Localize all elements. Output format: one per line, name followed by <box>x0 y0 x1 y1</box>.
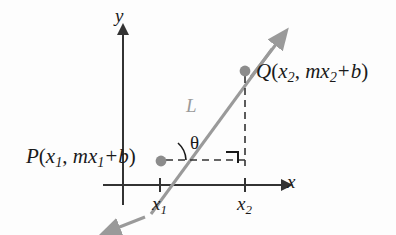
angle-arc-icon <box>178 143 186 160</box>
tick-x2-subscript: 2 <box>245 202 251 217</box>
tick-x1-subscript: 1 <box>160 202 166 217</box>
point-p-dot <box>156 156 167 167</box>
tick-label-x2: x2 <box>237 194 252 217</box>
point-p-x-symbol: x <box>46 144 55 168</box>
right-angle-icon <box>226 152 238 163</box>
point-p-label: P(x1, mx1+b) <box>26 146 136 169</box>
point-p-close-paren: ) <box>129 144 136 168</box>
point-q-name: Q <box>256 59 271 83</box>
point-q-slope-x-symbol: x <box>320 59 329 83</box>
angle-theta-label: θ <box>190 133 199 152</box>
x-axis-label: x <box>287 172 295 191</box>
point-q-slope-symbol: m <box>305 59 320 83</box>
point-p-slope-x-symbol: x <box>88 144 97 168</box>
line-l-label: L <box>186 96 197 115</box>
y-axis-label: y <box>115 6 123 25</box>
point-p-intercept: b <box>118 144 129 168</box>
point-q-slope-x-subscript: 2 <box>330 69 337 85</box>
point-q-label: Q(x2, mx2+b) <box>256 61 368 84</box>
point-q-comma: , <box>295 59 306 83</box>
point-p-open-paren: ( <box>39 144 46 168</box>
point-p-name: P <box>26 144 39 168</box>
point-p-plus: + <box>104 144 118 168</box>
point-q-dot <box>240 66 251 77</box>
point-q-x-subscript: 2 <box>288 69 295 85</box>
point-p-comma: , <box>62 144 73 168</box>
diagram-canvas <box>0 0 396 235</box>
point-q-close-paren: ) <box>361 59 368 83</box>
point-p-slope-symbol: m <box>73 144 88 168</box>
tick-label-x1: x1 <box>152 194 167 217</box>
line-slope-diagram: y x L θ P(x1, mx1+b) Q(x2, mx2+b) x1 x2 <box>0 0 396 235</box>
point-q-plus: + <box>337 59 351 83</box>
point-q-x-symbol: x <box>278 59 287 83</box>
point-q-intercept: b <box>351 59 362 83</box>
